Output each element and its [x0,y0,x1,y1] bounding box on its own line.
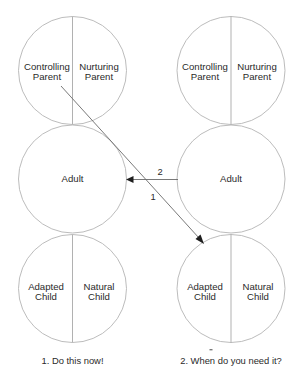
right-caption: 2. When do you need it? [180,355,282,366]
right-controlling-parent-label-2: Parent [191,71,220,82]
left-ego-states: Controlling Parent Nurturing Parent Adul… [19,17,127,367]
arrow-2-label: 2 [157,166,162,177]
left-controlling-parent-label-2: Parent [33,71,62,82]
right-child-circle: Adapted Child Natural Child [177,235,285,343]
right-nurturing-parent-label-2: Parent [243,71,272,82]
left-adult-label: Adult [62,173,84,184]
right-adult-label: Adult [220,173,242,184]
right-adult-circle: Adult [177,125,285,233]
left-nurturing-parent-label-2: Parent [85,71,114,82]
right-parent-circle: Controlling Parent Nurturing Parent [177,17,285,125]
left-natural-child-label-2: Child [88,291,110,302]
ego-state-diagram: Controlling Parent Nurturing Parent Adul… [0,0,304,383]
left-parent-circle: Controlling Parent Nurturing Parent [19,17,127,125]
arrowhead-2-icon [126,176,134,183]
small-mark [210,349,213,350]
right-natural-child-label-2: Child [247,291,269,302]
left-adult-circle: Adult [19,125,127,233]
arrow-1-label: 1 [150,191,155,202]
left-child-circle: Adapted Child Natural Child [19,235,127,343]
right-ego-states: Controlling Parent Nurturing Parent Adul… [177,17,285,367]
left-caption: 1. Do this now! [41,355,103,366]
left-adapted-child-label-2: Child [35,291,57,302]
right-adapted-child-label-2: Child [194,291,216,302]
arrow-2: 2 [126,166,178,183]
arrow-1: 1 [61,86,204,244]
